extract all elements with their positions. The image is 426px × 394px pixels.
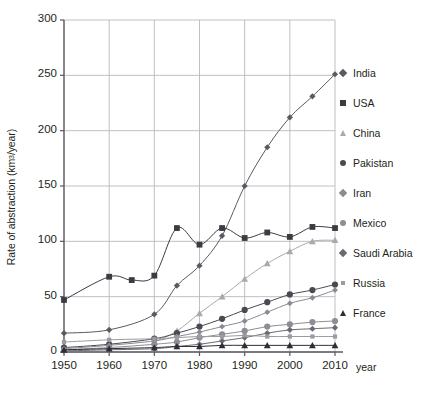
legend-item-india[interactable]: India [337,58,425,88]
legend-item-iran[interactable]: Iran [337,178,425,208]
legend-item-usa[interactable]: USA [337,88,425,118]
y-tick-300: 300 [23,12,57,24]
legend-marker-icon [337,277,349,289]
x-axis-unit-label: year [356,361,376,373]
legend-item-mexico[interactable]: Mexico [337,208,425,238]
legend-marker-icon [337,157,349,169]
legend-item-label: Russia [353,278,385,289]
legend-item-label: Pakistan [353,158,393,169]
chart-legend: IndiaUSAChinaPakistanIranMexicoSaudi Ara… [337,58,425,328]
y-tick-150: 150 [23,178,57,190]
x-tick-2000: 2000 [270,359,310,371]
chart-figure: Rate of abstraction (km3/year) 050100150… [0,0,426,394]
x-tick-1980: 1980 [180,359,220,371]
legend-marker-icon [337,187,349,199]
legend-marker-icon [337,307,349,319]
legend-item-pakistan[interactable]: Pakistan [337,148,425,178]
legend-item-china[interactable]: China [337,118,425,148]
y-tick-100: 100 [23,233,57,245]
legend-item-france[interactable]: France [337,298,425,328]
y-tick-200: 200 [23,123,57,135]
legend-item-label: India [353,68,376,79]
y-tick-0: 0 [23,344,57,356]
legend-item-saudi-arabia[interactable]: Saudi Arabia [337,238,425,268]
x-tick-1960: 1960 [89,359,129,371]
legend-item-label: China [353,128,380,139]
legend-marker-icon [337,217,349,229]
legend-item-russia[interactable]: Russia [337,268,425,298]
legend-item-label: Mexico [353,218,386,229]
x-tick-1950: 1950 [44,359,84,371]
legend-item-label: USA [353,98,375,109]
legend-marker-icon [337,247,349,259]
legend-item-label: Iran [353,188,371,199]
x-tick-1990: 1990 [225,359,265,371]
legend-marker-icon [337,97,349,109]
x-tick-2010: 2010 [315,359,355,371]
y-tick-50: 50 [23,289,57,301]
y-tick-250: 250 [23,67,57,79]
legend-marker-icon [337,127,349,139]
legend-item-label: France [353,308,386,319]
x-tick-1970: 1970 [134,359,174,371]
legend-marker-icon [337,67,349,79]
legend-item-label: Saudi Arabia [353,248,413,259]
